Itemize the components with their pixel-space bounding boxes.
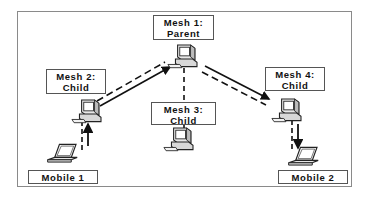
mesh1-computer-icon — [168, 45, 197, 68]
arrow-mesh1-mesh4 — [205, 66, 269, 99]
mesh4-label-line2: Child — [266, 80, 324, 91]
mesh3-label: Mesh 3: Child — [151, 102, 216, 125]
dashed-mesh1-mesh4 — [202, 72, 266, 105]
mesh1-label: Mesh 1: Parent — [153, 15, 214, 40]
mesh1-label-line1: Mesh 1: — [154, 17, 213, 28]
mobile1-laptop-icon — [48, 144, 78, 162]
mobile2-laptop-icon — [289, 147, 319, 165]
mesh2-label-line1: Mesh 2: — [47, 71, 105, 82]
arrow-mesh2-mesh1 — [100, 67, 170, 106]
mesh4-computer-icon — [272, 99, 301, 122]
mesh2-computer-icon — [72, 100, 101, 123]
mesh2-label: Mesh 2: Child — [46, 69, 106, 94]
dashed-mesh2-mesh1 — [97, 62, 165, 101]
mesh3-label-line1: Mesh 3: — [152, 104, 215, 115]
mesh4-label-line1: Mesh 4: — [266, 69, 324, 80]
mobile1-label-text: Mobile 1 — [29, 172, 97, 183]
mesh4-label: Mesh 4: Child — [265, 67, 325, 91]
mobile1-label: Mobile 1 — [28, 170, 98, 184]
mesh2-label-line2: Child — [47, 82, 105, 93]
mesh3-computer-icon — [164, 128, 193, 151]
mesh3-label-line2: Child — [152, 115, 215, 126]
mobile2-label-text: Mobile 2 — [279, 172, 347, 183]
mobile2-label: Mobile 2 — [278, 170, 348, 184]
mesh1-label-line2: Parent — [154, 28, 213, 39]
